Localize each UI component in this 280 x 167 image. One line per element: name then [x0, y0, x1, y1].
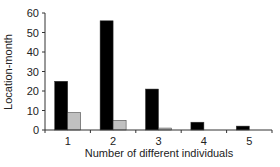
bar: [146, 89, 159, 130]
y-tick-label: 50: [27, 27, 39, 39]
x-tick-label: 3: [155, 135, 161, 147]
x-tick-label: 1: [65, 135, 71, 147]
y-tick-label: 60: [27, 7, 39, 19]
y-ticks: 0102030405060: [27, 7, 45, 136]
x-tick-label: 2: [110, 135, 116, 147]
y-tick-label: 20: [27, 85, 39, 97]
y-tick-label: 0: [33, 124, 39, 136]
bar: [68, 112, 81, 130]
y-axis-label: Location-month: [2, 34, 14, 110]
x-axis-label: Number of different individuals: [85, 147, 234, 159]
x-tick-label: 4: [201, 135, 207, 147]
y-tick-label: 10: [27, 105, 39, 117]
y-tick-label: 30: [27, 66, 39, 78]
bar: [100, 21, 113, 130]
bars: [55, 21, 250, 130]
bar: [191, 122, 204, 130]
x-tick-label: 5: [246, 135, 252, 147]
bar: [236, 126, 249, 130]
x-ticks: 12345: [45, 130, 272, 147]
bar-chart: 0102030405060 12345 Location-month Numbe…: [0, 0, 280, 167]
y-tick-label: 40: [27, 46, 39, 58]
bar: [55, 81, 68, 130]
bar: [113, 120, 126, 130]
